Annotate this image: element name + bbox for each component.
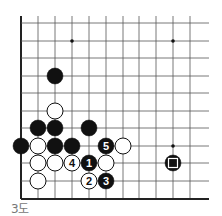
white-stone xyxy=(30,173,46,189)
move-number-label: 3 xyxy=(103,175,109,187)
go-board: 54123 xyxy=(0,0,222,216)
black-stone-icon xyxy=(47,120,63,136)
black-stone-3: 3 xyxy=(98,173,114,189)
white-stone xyxy=(30,138,46,154)
black-stone-icon xyxy=(30,120,46,136)
black-stone-icon xyxy=(165,155,181,171)
white-stone-icon xyxy=(30,155,46,171)
black-stone xyxy=(30,120,46,136)
diagram-caption: 3도 xyxy=(11,199,29,216)
white-stone-4: 4 xyxy=(64,155,80,171)
white-stone-2: 2 xyxy=(81,173,97,189)
star-point-icon xyxy=(70,39,74,43)
black-stone-icon xyxy=(13,138,29,154)
move-number-label: 1 xyxy=(86,157,92,169)
black-stone-icon xyxy=(47,138,63,154)
white-stone-icon xyxy=(47,155,63,171)
black-stone-1: 1 xyxy=(81,155,97,171)
black-stone xyxy=(47,120,63,136)
white-stone xyxy=(115,138,131,154)
white-stone xyxy=(47,103,63,119)
black-stone-5: 5 xyxy=(98,138,114,154)
black-stone xyxy=(81,120,97,136)
white-stone xyxy=(30,155,46,171)
black-stone-icon xyxy=(47,68,63,84)
black-stone xyxy=(47,68,63,84)
black-stone xyxy=(47,138,63,154)
black-stone-icon xyxy=(81,120,97,136)
white-stone-icon xyxy=(30,173,46,189)
star-point-icon xyxy=(171,39,175,43)
black-stone-icon xyxy=(64,138,80,154)
move-number-label: 4 xyxy=(69,157,76,169)
white-stone-icon xyxy=(115,138,131,154)
white-stone xyxy=(98,155,114,171)
white-stone xyxy=(47,155,63,171)
white-stone-icon xyxy=(30,138,46,154)
move-number-label: 5 xyxy=(103,140,109,152)
black-stone xyxy=(13,138,29,154)
move-number-label: 2 xyxy=(86,175,92,187)
white-stone-icon xyxy=(47,103,63,119)
star-point-icon xyxy=(171,144,175,148)
black-stone xyxy=(165,155,181,171)
white-stone-icon xyxy=(98,155,114,171)
black-stone xyxy=(64,138,80,154)
